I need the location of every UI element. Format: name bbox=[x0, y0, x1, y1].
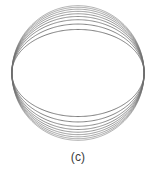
plot-background bbox=[0, 0, 156, 146]
figure-caption: (c) bbox=[0, 146, 156, 170]
contour-plot bbox=[0, 0, 156, 146]
figure-container: (c) bbox=[0, 0, 156, 170]
contour-curves-svg bbox=[0, 0, 156, 146]
